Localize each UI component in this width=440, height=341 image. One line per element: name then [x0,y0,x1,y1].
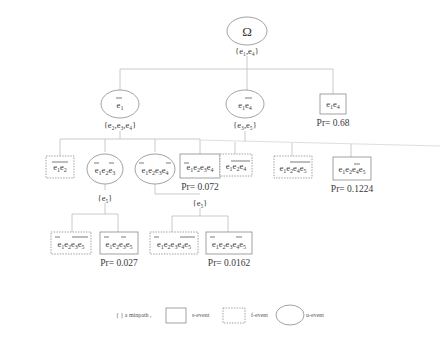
node-e1e2-e4e5bar-fail: e1e2e4e5 [274,156,312,178]
node-l3-c-fail: e1e2e3e4e5 [150,232,198,254]
node-e1bar-e2e3e4-success: e1e2e3e4 Pr= 0.072 {e₅} [180,154,220,208]
legend-s-event-swatch [166,308,186,323]
node-l3-a-fail: e1e2e3e5 [51,232,91,254]
legend-f-event: f-event [251,312,268,318]
node-e1e2e4bar-e5-success: e1e2e4e5 Pr= 0.1224 [331,157,374,194]
svg-text:e1e2e4: e1e2e4 [226,161,246,172]
root-label: Ω [242,24,252,39]
svg-text:e1e2e3: e1e2e3 [95,165,115,176]
root-minpath: {e₁,e₄} [235,46,259,56]
pr-e1e2e3e4: Pr= 0.072 [181,182,219,192]
minpath-e1e4bar: {e₃,e₅} [233,120,257,130]
minpath-e1bar: {e₂,e₃,e₄} [104,120,137,130]
node-e1-e2e4bar-fail: e1e2e4 [220,154,252,176]
minpath-e1e2e3: {e₅} [98,193,113,203]
pr-e1e4: Pr= 0.68 [317,118,350,128]
event-tree-diagram: Ω {e₁,e₄} e1 {e₂,e₃,e₄} e1e4 {e₃,e₅} e1e… [0,0,440,341]
legend: { } a minpath , s-event f-event u-event [116,305,324,325]
pr-l3-d: Pr= 0.0162 [208,258,251,268]
node-l3-d-success: e1e2e3e4e5 Pr= 0.0162 [206,232,252,268]
root-node-omega: Ω {e₁,e₄} [227,17,267,56]
pr-l3-b: Pr= 0.027 [100,258,138,268]
node-e1e4bar: e1e4 {e₃,e₅} [226,90,264,130]
legend-u-event-swatch [276,305,304,325]
legend-s-event: s-event [192,312,210,318]
node-e1e4-success: e1e4 Pr= 0.68 [317,94,350,128]
minpath-e1e2e3e4: {e₅} [193,198,208,208]
node-e1bar-e2-e3bar: e1e2e3 {e₅} [87,154,123,203]
node-e1bar: e1 {e₂,e₃,e₄} [101,90,139,130]
node-e1bar-e2bar-fail: e1e2 [46,156,74,178]
tree-edges [60,56,440,232]
node-e1bar-e2-e3-e4bar: e1e2e3e4 [135,154,175,184]
legend-f-event-swatch [223,308,245,323]
legend-minpath: { } a minpath , [116,312,152,319]
node-l3-b-success: e1e2e3e5 Pr= 0.027 [100,232,138,268]
legend-u-event: u-event [306,312,324,318]
pr-e1e2e4e5: Pr= 0.1224 [331,184,374,194]
